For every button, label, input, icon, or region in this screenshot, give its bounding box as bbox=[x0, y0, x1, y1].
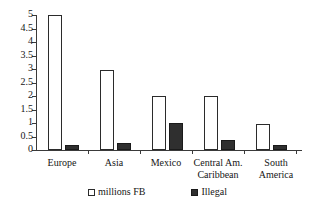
y-axis-tick-label: 3.5 bbox=[21, 49, 34, 61]
y-axis-tick-label: 2.5 bbox=[21, 76, 34, 88]
x-axis-tick bbox=[88, 150, 89, 154]
bar-millions-fb bbox=[152, 96, 166, 150]
bar-millions-fb bbox=[48, 15, 62, 150]
y-axis-tick-5: 5 bbox=[36, 15, 40, 16]
category-label-line: South bbox=[248, 157, 304, 169]
y-axis-tick-2-5: 2.5 bbox=[36, 83, 40, 84]
x-axis-tick bbox=[192, 150, 193, 154]
x-axis-category-label-mexico: Mexico bbox=[140, 157, 192, 169]
y-axis-tick-label: 4.5 bbox=[21, 22, 34, 34]
y-axis-tick-label: 0.5 bbox=[21, 130, 34, 142]
legend-label: Illegal bbox=[201, 186, 227, 198]
x-axis-category-label-south-america: South America bbox=[248, 157, 304, 180]
y-axis-tick-label: 1.5 bbox=[21, 103, 34, 115]
bar-illegal bbox=[65, 145, 79, 150]
y-axis-tick-2: 2 bbox=[36, 96, 40, 97]
y-axis-tick-3-5: 3.5 bbox=[36, 56, 40, 57]
bar-illegal bbox=[273, 145, 287, 150]
y-axis-tick-4: 4 bbox=[36, 42, 40, 43]
y-axis-tick-label: 2 bbox=[28, 89, 33, 101]
category-label-line: Asia bbox=[88, 157, 140, 169]
y-axis-tick-label: 0 bbox=[28, 143, 33, 155]
x-axis-category-label-asia: Asia bbox=[88, 157, 140, 169]
bar-illegal bbox=[117, 143, 131, 150]
bar-illegal bbox=[169, 123, 183, 150]
x-axis-tick bbox=[296, 150, 297, 154]
y-axis-tick-label: 4 bbox=[28, 35, 33, 47]
y-axis-tick-0-5: 0.5 bbox=[36, 137, 40, 138]
legend-item-illegal: Illegal bbox=[191, 186, 227, 198]
category-label-line: Central Am. bbox=[188, 157, 248, 169]
y-axis-tick-3: 3 bbox=[36, 69, 40, 70]
y-axis-tick-1: 1 bbox=[36, 123, 40, 124]
legend-label: millions FB bbox=[98, 186, 146, 198]
x-axis-line bbox=[36, 150, 302, 151]
category-label-line: Europe bbox=[36, 157, 88, 169]
legend-item-millions-fb: millions FB bbox=[88, 186, 146, 198]
x-axis-tick bbox=[244, 150, 245, 154]
bar-millions-fb bbox=[100, 70, 114, 150]
bar-millions-fb bbox=[204, 96, 218, 150]
plot-area: 5 4.5 4 3.5 3 2.5 2 1.5 bbox=[36, 10, 304, 155]
filled-square-swatch-icon bbox=[191, 189, 198, 196]
category-label-line: America bbox=[248, 169, 304, 181]
x-axis-category-label-europe: Europe bbox=[36, 157, 88, 169]
y-axis-tick-1-5: 1.5 bbox=[36, 110, 40, 111]
bar-chart-figure: 5 4.5 4 3.5 3 2.5 2 1.5 bbox=[0, 0, 315, 215]
y-axis-tick-0: 0 bbox=[36, 150, 40, 151]
category-label-line: Mexico bbox=[140, 157, 192, 169]
hollow-square-swatch-icon bbox=[88, 189, 95, 196]
y-axis-tick-label: 1 bbox=[28, 116, 33, 128]
y-axis-tick-label: 5 bbox=[28, 8, 33, 20]
chart-legend: millions FB Illegal bbox=[0, 184, 315, 200]
y-axis-tick-4-5: 4.5 bbox=[36, 29, 40, 30]
bar-illegal bbox=[221, 140, 235, 150]
x-axis-tick bbox=[140, 150, 141, 154]
x-axis-category-label-central-am-caribbean: Central Am. Caribbean bbox=[188, 157, 248, 180]
y-axis-tick-label: 3 bbox=[28, 62, 33, 74]
category-label-line: Caribbean bbox=[188, 169, 248, 181]
bar-millions-fb bbox=[256, 124, 270, 150]
